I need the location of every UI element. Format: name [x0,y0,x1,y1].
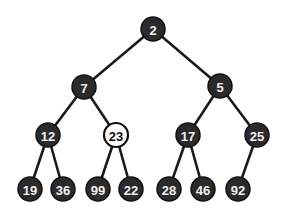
node-label: 46 [196,183,210,198]
tree-node-5: 5 [208,74,232,98]
tree-nodes: 2751223172519369922284692 [18,17,269,201]
tree-node-36: 36 [51,177,75,201]
tree-node-12: 12 [36,123,60,147]
tree-edges [30,29,257,189]
node-label: 5 [216,80,223,95]
tree-edge-2-7 [84,29,153,87]
node-label: 7 [80,81,87,96]
tree-node-92: 92 [226,177,250,201]
tree-node-99: 99 [86,177,110,201]
tree-node-23: 23 [104,123,128,147]
node-label: 25 [250,129,264,144]
node-label: 36 [56,183,70,198]
node-label: 22 [124,183,138,198]
tree-node-22: 22 [119,177,143,201]
tree-node-19: 19 [18,177,42,201]
node-label: 17 [181,129,195,144]
binary-tree-diagram: 2751223172519369922284692 [0,0,287,216]
node-label: 99 [91,183,105,198]
node-label: 28 [162,183,176,198]
tree-edge-2-5 [153,29,220,86]
tree-node-17: 17 [176,123,200,147]
tree-node-25: 25 [245,123,269,147]
node-label: 19 [23,183,37,198]
node-label: 23 [109,129,123,144]
tree-node-7: 7 [72,75,96,99]
node-label: 12 [41,129,55,144]
node-label: 2 [149,23,156,38]
tree-node-2: 2 [141,17,165,41]
tree-node-28: 28 [157,177,181,201]
tree-node-46: 46 [191,177,215,201]
node-label: 92 [231,183,245,198]
